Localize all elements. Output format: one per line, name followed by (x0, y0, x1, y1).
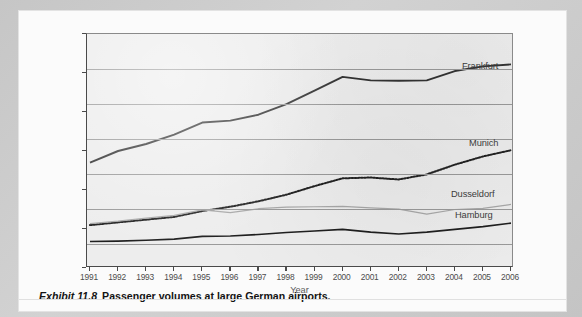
series-label-dusseldorf: Dusseldorf (451, 189, 494, 199)
chart-figure: Number of passengers (1000s) 010,00020,0… (19, 11, 566, 281)
series-line-frankfurt (90, 64, 511, 162)
page-background: Number of passengers (1000s) 010,00020,0… (0, 0, 582, 317)
x-tick-label: 1998 (277, 272, 295, 282)
exhibit-number: Exhibit 11.8 (39, 290, 97, 302)
figure-caption: Exhibit 11.8Passenger volumes at large G… (39, 290, 331, 302)
x-tick-label: 2006 (501, 272, 519, 282)
x-tick-label: 1991 (80, 272, 98, 282)
x-tick-mark (229, 267, 230, 271)
x-tick-mark (454, 267, 455, 271)
plot-area (86, 33, 513, 267)
x-tick-mark (482, 267, 483, 271)
x-tick-label: 2004 (445, 272, 463, 282)
caption-text: Passenger volumes at large German airpor… (102, 290, 330, 302)
x-tick-mark (398, 267, 399, 271)
x-tick-mark (145, 267, 146, 271)
x-tick-label: 2000 (333, 272, 351, 282)
x-tick-label: 2005 (473, 272, 491, 282)
x-tick-label: 2003 (417, 272, 435, 282)
series-line-dusseldorf (90, 204, 511, 223)
x-tick-mark (426, 267, 427, 271)
x-tick-label: 2001 (361, 272, 379, 282)
x-tick-label: 1997 (248, 272, 266, 282)
series-line-hamburg (90, 223, 511, 241)
x-tick-mark (342, 267, 343, 271)
gridline (87, 104, 512, 105)
gridline (87, 209, 512, 210)
panel-divider (19, 299, 566, 300)
series-label-frankfurt: Frankfurt (462, 61, 498, 71)
x-tick-label: 1996 (220, 272, 238, 282)
gridline (87, 174, 512, 175)
x-tick-mark (89, 267, 90, 271)
gridline (87, 139, 512, 140)
x-tick-label: 1993 (136, 272, 154, 282)
x-tick-mark (510, 267, 511, 271)
figure-panel: Number of passengers (1000s) 010,00020,0… (19, 11, 566, 311)
x-tick-mark (173, 267, 174, 271)
x-tick-label: 1994 (164, 272, 182, 282)
x-tick-mark (201, 267, 202, 271)
x-tick-label: 1999 (305, 272, 323, 282)
series-label-munich: Munich (469, 138, 498, 148)
x-tick-mark (117, 267, 118, 271)
series-label-hamburg: Hamburg (455, 210, 493, 220)
series-line-munich (90, 150, 511, 225)
gridline (87, 69, 512, 70)
x-tick-label: 1995 (192, 272, 210, 282)
x-tick-label: 2002 (389, 272, 407, 282)
x-tick-label: 1992 (108, 272, 126, 282)
x-tick-mark (257, 267, 258, 271)
gridline (87, 244, 512, 245)
x-tick-mark (285, 267, 286, 271)
x-tick-mark (314, 267, 315, 271)
x-tick-mark (370, 267, 371, 271)
